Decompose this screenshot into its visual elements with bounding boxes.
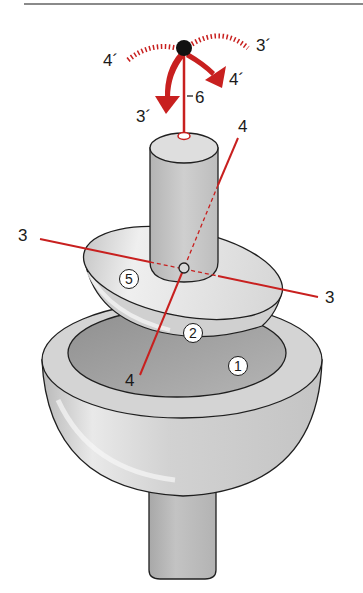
label-rot3-right: 3´ [256, 37, 271, 54]
joint-diagram [0, 0, 363, 593]
stem [149, 490, 216, 579]
part-1-badge: 1 [228, 356, 248, 376]
label-rot4-arrow: 4´ [229, 71, 244, 88]
label-axis4-bottom: 4 [125, 372, 134, 389]
pivot-point [179, 263, 189, 273]
label-rot3-arrow: 3´ [136, 108, 151, 125]
rotation-center-dot [176, 40, 192, 56]
label-axis4-top: 4 [238, 118, 247, 135]
part-2-badge: 2 [183, 323, 203, 343]
upper-cylinder [150, 133, 218, 283]
label-rot4-left: 4´ [103, 52, 118, 69]
label-axis3-right: 3 [325, 289, 334, 306]
part-5-badge: 5 [119, 269, 139, 289]
label-axis3-left: 3 [18, 227, 27, 244]
rotation-arrows [155, 52, 226, 114]
label-axis6: 6 [195, 89, 204, 106]
